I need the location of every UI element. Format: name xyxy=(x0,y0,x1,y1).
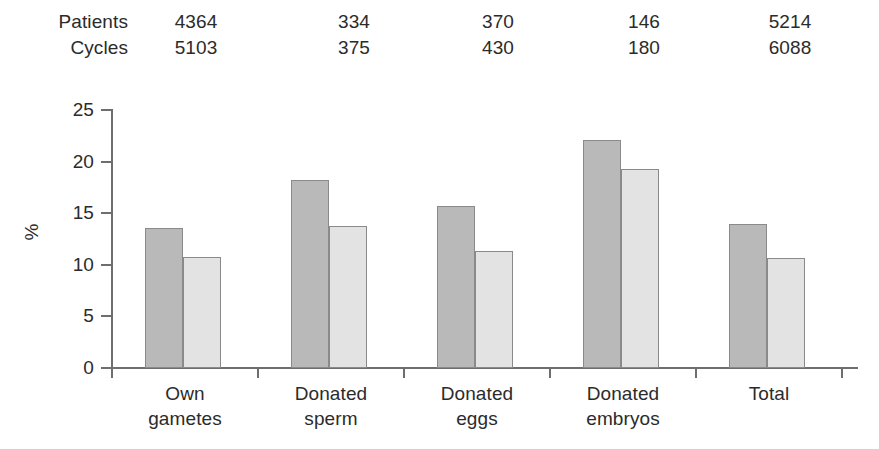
bar-series-1-donated-embryos xyxy=(583,140,621,368)
x-tick-0 xyxy=(111,367,113,378)
bar-series-2-own-gametes xyxy=(183,257,221,368)
y-tick-25 xyxy=(101,109,112,111)
bar-series-2-total xyxy=(767,258,805,368)
y-tick-label-15: 15 xyxy=(38,203,94,222)
category-label-line1: Total xyxy=(749,383,790,404)
category-label-line1: Donated xyxy=(295,383,368,404)
category-label-line1: Donated xyxy=(587,383,660,404)
x-tick-2 xyxy=(403,367,405,378)
category-label-line1: Own xyxy=(165,383,204,404)
category-label-line2: gametes xyxy=(100,406,270,431)
bar-series-1-own-gametes xyxy=(145,228,183,368)
x-tick-end xyxy=(841,367,843,378)
category-label-line1: Donated xyxy=(441,383,514,404)
y-tick-label-10: 10 xyxy=(38,255,94,274)
bar-series-1-donated-sperm xyxy=(291,180,329,368)
y-tick-label-20: 20 xyxy=(38,152,94,171)
bar-chart: % 0510152025 OwngametesDonatedspermDonat… xyxy=(0,0,879,449)
x-tick-4 xyxy=(695,367,697,378)
category-label-line2: sperm xyxy=(246,406,416,431)
category-label-line2: embryos xyxy=(538,406,708,431)
y-tick-label-5: 5 xyxy=(38,306,94,325)
y-tick-20 xyxy=(101,161,112,163)
bar-series-1-donated-eggs xyxy=(437,206,475,368)
category-label-donated-embryos: Donatedembryos xyxy=(538,381,708,431)
bar-series-2-donated-sperm xyxy=(329,226,367,368)
bar-series-2-donated-embryos xyxy=(621,169,659,368)
category-label-line2: eggs xyxy=(392,406,562,431)
x-tick-1 xyxy=(257,367,259,378)
category-label-donated-eggs: Donatedeggs xyxy=(392,381,562,431)
y-tick-15 xyxy=(101,212,112,214)
plot-area xyxy=(112,110,857,368)
bar-series-2-donated-eggs xyxy=(475,251,513,368)
y-tick-label-25: 25 xyxy=(38,100,94,119)
category-label-total: Total xyxy=(684,381,854,406)
bar-series-1-total xyxy=(729,224,767,368)
y-tick-5 xyxy=(101,315,112,317)
y-tick-10 xyxy=(101,264,112,266)
x-tick-3 xyxy=(549,367,551,378)
category-label-donated-sperm: Donatedsperm xyxy=(246,381,416,431)
category-label-own-gametes: Owngametes xyxy=(100,381,270,431)
y-tick-label-0: 0 xyxy=(38,358,94,377)
